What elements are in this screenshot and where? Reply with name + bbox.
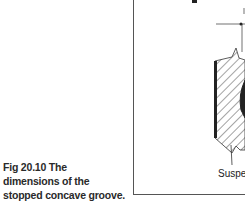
suspension-label: Susper	[218, 168, 245, 179]
groove-diagram	[0, 0, 245, 215]
top-mark-icon	[192, 0, 197, 3]
